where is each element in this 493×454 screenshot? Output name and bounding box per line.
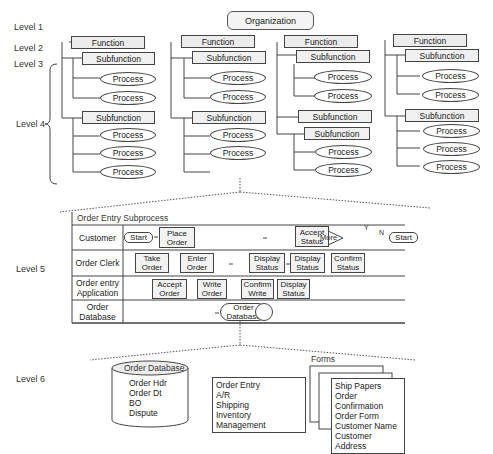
level-3-label: Level 3 [14, 59, 43, 69]
process-node[interactable]: Process [210, 128, 266, 142]
process-node[interactable]: Process [210, 146, 266, 160]
subfunction-node[interactable]: Subfunction [296, 50, 370, 63]
process-node[interactable]: Process [422, 69, 479, 83]
process-node[interactable]: Process [315, 163, 372, 177]
end-node[interactable]: Start [389, 232, 418, 243]
subfunction-node[interactable]: Subfunction [405, 109, 479, 122]
display-status-node[interactable]: Display Status [290, 253, 325, 273]
forms-box: Ship Papers Order Confirmation Order For… [331, 378, 405, 454]
organization-node[interactable]: Organization [227, 11, 314, 30]
level-4-label: Level 4 [16, 119, 45, 129]
more-decision[interactable]: More [320, 233, 337, 242]
db-item: Dispute [129, 408, 167, 418]
yes-label: Y [364, 224, 369, 231]
place-order-node[interactable]: Place Order [159, 227, 195, 248]
level-2-label: Level 2 [14, 43, 43, 53]
display-status-node[interactable]: Display Status [249, 253, 285, 273]
accept-order-node[interactable]: Accept Order [152, 279, 187, 299]
db-title: Order Database [124, 363, 184, 373]
form-item: Order Form [335, 411, 401, 421]
subfunction-node[interactable]: Subfunction [405, 49, 479, 62]
lane-order-database: Order Database [72, 300, 123, 323]
app-item: Inventory Management [216, 410, 302, 430]
start-node[interactable]: Start [124, 232, 153, 243]
function-node[interactable]: Function [393, 34, 467, 47]
process-node[interactable]: Process [100, 165, 156, 179]
process-node[interactable]: Process [422, 88, 479, 102]
db-item: Order Dt [129, 388, 167, 398]
forms-title: Forms [311, 354, 335, 364]
process-node[interactable]: Process [423, 124, 480, 138]
db-items: Order Hdr Order Dt BO Dispute [129, 378, 167, 418]
subfunction-node[interactable]: Subfunction [192, 51, 266, 64]
subfunction-node[interactable]: Subfunction [298, 110, 372, 123]
app-item: A/R [216, 390, 302, 400]
form-item: Ship Papers [335, 381, 401, 391]
swimlane-title: Order Entry Subprocess [77, 213, 168, 223]
process-node[interactable]: Process [314, 89, 372, 103]
enter-order-node[interactable]: Enter Order [180, 253, 214, 273]
confirm-status-node[interactable]: Confirm Status [331, 253, 365, 273]
subfunction-node[interactable]: Subfunction [304, 127, 370, 140]
subfunction-node[interactable]: Subfunction [82, 52, 155, 65]
process-node[interactable]: Process [315, 145, 372, 159]
process-node[interactable]: Process [100, 91, 156, 105]
process-node[interactable]: Process [314, 70, 372, 84]
app-item: Order Entry [216, 380, 302, 390]
process-node[interactable]: Process [100, 72, 156, 86]
db-item: Order Hdr [129, 378, 167, 388]
function-node[interactable]: Function [181, 35, 255, 48]
app-item: Shipping [216, 400, 302, 410]
level-5-label: Level 5 [16, 264, 45, 274]
lane-customer: Customer [72, 225, 123, 250]
no-label: N [379, 229, 384, 236]
form-item: Order Confirmation [335, 391, 401, 411]
db-item: BO [129, 398, 167, 408]
form-item: Customer Address [335, 431, 401, 451]
subfunction-node[interactable]: Subfunction [192, 111, 266, 124]
applications-box: Order Entry A/R Shipping Inventory Manag… [212, 377, 306, 433]
write-order-node[interactable]: Write Order [197, 279, 227, 299]
process-node[interactable]: Process [100, 128, 156, 142]
display-status-node[interactable]: Display Status [277, 279, 310, 299]
function-node[interactable]: Function [284, 35, 358, 48]
function-node[interactable]: Function [71, 36, 145, 49]
process-node[interactable]: Process [100, 146, 156, 160]
lane-order-clerk: Order Clerk [72, 250, 123, 276]
process-node[interactable]: Process [210, 90, 266, 104]
form-item: Customer Name [335, 421, 401, 431]
database-end-icon [255, 303, 273, 321]
process-node[interactable]: Process [210, 71, 266, 85]
level-1-label: Level 1 [14, 22, 43, 32]
level-6-label: Level 6 [16, 374, 45, 384]
lane-order-entry-app: Order entry Application [72, 276, 123, 300]
subfunction-node[interactable]: Subfunction [82, 111, 155, 124]
process-node[interactable]: Process [423, 142, 480, 156]
take-order-node[interactable]: Take Order [135, 253, 169, 273]
process-node[interactable]: Process [423, 160, 480, 174]
confirm-write-node[interactable]: Confirm Write [241, 279, 274, 299]
